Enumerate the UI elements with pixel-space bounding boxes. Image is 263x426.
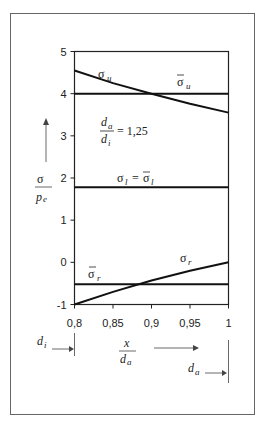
label-sigma-u-bar: σ u — [177, 75, 191, 91]
x-axis: 0,80,850,90,951 — [67, 305, 232, 329]
stress-chart: -1012345 0,80,850,90,951 σ u σ u d a d i… — [0, 0, 263, 426]
svg-text:i: i — [108, 138, 111, 148]
svg-text:l: l — [151, 177, 154, 187]
svg-text:p: p — [35, 190, 42, 204]
svg-text:=: = — [132, 171, 139, 185]
svg-text:σ: σ — [143, 171, 150, 185]
svg-text:σ: σ — [88, 267, 95, 281]
x-axis-label: x d a — [119, 336, 199, 367]
svg-text:a: a — [108, 121, 113, 131]
svg-text:d: d — [101, 132, 108, 146]
x-tick-label: 0,95 — [179, 317, 200, 329]
x-tick-label: 1 — [225, 317, 231, 329]
y-tick-label: 4 — [60, 88, 66, 100]
x-tick-label: 0,85 — [102, 317, 123, 329]
svg-text:= 1,25: = 1,25 — [117, 124, 148, 138]
y-tick-label: 3 — [60, 130, 66, 142]
svg-text:d: d — [37, 334, 44, 348]
x-tick-label: 0,9 — [144, 317, 159, 329]
y-tick-label: 2 — [60, 172, 66, 184]
arrow-right-icon — [69, 346, 74, 352]
svg-text:l: l — [125, 177, 128, 187]
y-tick-label: 1 — [60, 214, 66, 226]
svg-text:d: d — [101, 115, 108, 129]
svg-text:a: a — [127, 357, 132, 367]
svg-text:i: i — [44, 340, 47, 350]
svg-text:σ: σ — [98, 67, 105, 81]
svg-text:x: x — [123, 336, 130, 350]
svg-text:u: u — [107, 73, 112, 83]
y-tick-label: 5 — [60, 46, 66, 58]
svg-text:r: r — [97, 273, 101, 283]
di-marker: d i — [37, 333, 75, 356]
y-axis-label: σ p e — [35, 118, 52, 204]
svg-text:σ: σ — [180, 251, 187, 265]
svg-text:r: r — [188, 257, 192, 267]
label-sigma-r-bar: σ r — [88, 267, 101, 283]
y-axis: -1012345 — [57, 46, 75, 311]
y-tick-label: 0 — [60, 256, 66, 268]
x-tick-label: 0,8 — [67, 317, 82, 329]
arrow-right-icon — [193, 345, 199, 351]
arrow-right-icon — [222, 370, 227, 376]
svg-text:σ: σ — [177, 75, 184, 89]
svg-text:a: a — [195, 367, 200, 377]
outer-frame — [11, 14, 255, 415]
arrow-up-icon — [43, 118, 49, 125]
label-ratio: d a d i = 1,25 — [100, 115, 148, 148]
svg-text:σ: σ — [117, 171, 124, 185]
svg-text:σ: σ — [37, 172, 44, 186]
label-sigma-r: σ r — [180, 251, 192, 267]
svg-text:d: d — [188, 361, 195, 375]
label-sigma-l: σ l = σ l — [117, 171, 154, 187]
y-tick-label: -1 — [57, 299, 67, 311]
svg-text:d: d — [120, 352, 127, 366]
svg-text:u: u — [186, 81, 191, 91]
series-group — [75, 70, 229, 304]
svg-text:e: e — [43, 194, 47, 204]
